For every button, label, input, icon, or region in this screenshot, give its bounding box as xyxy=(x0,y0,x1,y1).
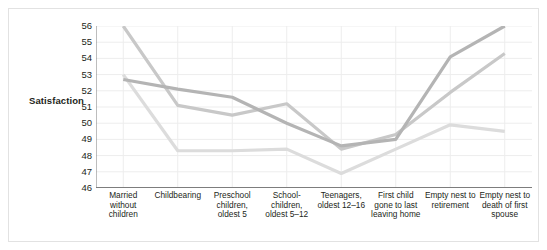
x-tick-label: Married without children xyxy=(96,191,151,247)
gridlines xyxy=(96,26,532,188)
y-tick-label: 47 xyxy=(66,167,92,177)
data-series-group xyxy=(123,26,505,173)
y-tick-label: 46 xyxy=(66,183,92,193)
x-tick-label: Childbearing xyxy=(151,191,206,247)
y-tick-label: 55 xyxy=(66,37,92,47)
y-tick-label: 50 xyxy=(66,118,92,128)
x-tick-label: Teenagers, oldest 12–16 xyxy=(314,191,369,247)
x-tick-label: School-children, oldest 5–12 xyxy=(260,191,315,247)
data-line-series-2 xyxy=(123,26,505,149)
chart-figure: Satisfaction 5655545352515049484746 Marr… xyxy=(0,0,547,250)
y-tick-label: 48 xyxy=(66,151,92,161)
y-tick-label: 49 xyxy=(66,134,92,144)
x-tick-label: Empty nest to death of first spouse xyxy=(478,191,533,247)
x-tick-label: Preschool children, oldest 5 xyxy=(205,191,260,247)
x-tick-label: Empty nest to retirement xyxy=(423,191,478,247)
x-axis-tick-labels: Married without childrenChildbearingPres… xyxy=(96,191,532,247)
y-tick-label: 52 xyxy=(66,86,92,96)
x-tick-label: First child gone to last leaving home xyxy=(369,191,424,247)
line-chart-svg xyxy=(96,26,532,188)
plot-area xyxy=(96,26,532,188)
y-tick-label: 56 xyxy=(66,21,92,31)
y-tick-label: 51 xyxy=(66,102,92,112)
y-tick-label: 53 xyxy=(66,70,92,80)
y-tick-label: 54 xyxy=(66,53,92,63)
y-axis-tick-labels: 5655545352515049484746 xyxy=(66,18,92,196)
